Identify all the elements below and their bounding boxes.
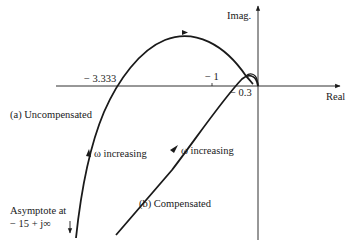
compensated-omega-arrow <box>170 145 178 153</box>
uncompensated-omega-label: ω increasing <box>94 149 147 160</box>
tick-label-minus-3333: − 3.333 <box>84 74 116 85</box>
real-axis-label: Real <box>326 92 345 103</box>
asymptote-label-line2: − 15 + j∞ <box>10 219 51 230</box>
tick-label-minus-1: − 1 <box>205 72 219 83</box>
tick-label-minus-03: − 0.3 <box>230 88 252 99</box>
compensated-label: (b) Compensated <box>139 199 211 210</box>
compensated-omega-label: ω increasing <box>181 146 234 157</box>
uncompensated-label: (a) Uncompensated <box>10 110 92 121</box>
asymptote-label-line1: Asymptote at <box>10 206 66 217</box>
imag-axis-label: Imag. <box>227 11 251 22</box>
uncompensated-top-arrow <box>182 30 188 35</box>
